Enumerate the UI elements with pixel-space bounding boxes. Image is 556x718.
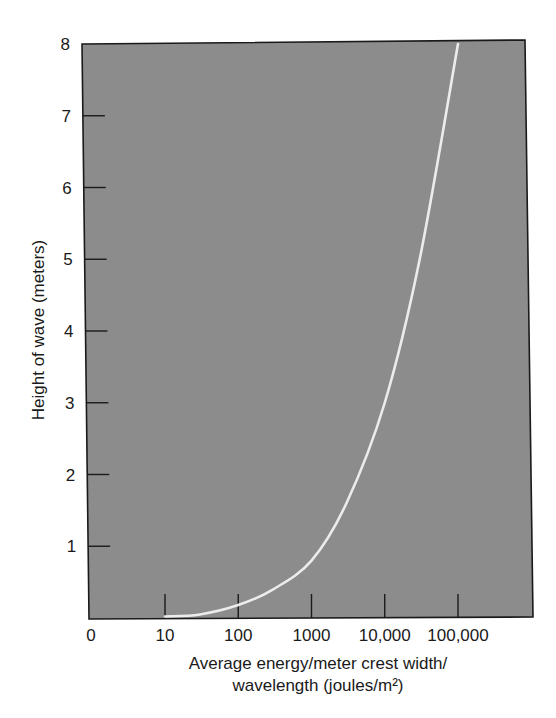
y-tick-label: 3 <box>65 394 74 413</box>
y-tick-label: 8 <box>61 35 70 54</box>
x-axis-tick-labels: 010100100010,000100,000 <box>86 626 488 645</box>
x-tick-label: 100 <box>224 626 252 645</box>
y-tick-label: 6 <box>62 179 71 198</box>
x-axis-title-line-2: wavelength (joules/m²) <box>231 676 403 695</box>
y-tick-label: 4 <box>64 322 73 341</box>
plot-area <box>82 40 533 619</box>
x-tick-label: 10 <box>156 626 175 645</box>
x-axis-title-line-1: Average energy/meter crest width/ <box>189 654 448 673</box>
y-axis-tick-labels: 12345678 <box>61 35 77 556</box>
y-tick-label: 7 <box>61 107 70 126</box>
x-tick-label: 10,000 <box>359 626 411 645</box>
y-tick-label: 2 <box>66 466 75 485</box>
wave-energy-chart: 12345678 010100100010,000100,000 Height … <box>0 0 556 718</box>
x-tick-label: 1000 <box>293 626 331 645</box>
y-tick-label: 1 <box>67 537 76 556</box>
y-tick-label: 5 <box>63 250 72 269</box>
x-tick-label: 100,000 <box>427 626 488 645</box>
plot-background <box>82 40 533 619</box>
x-tick-label: 0 <box>86 626 95 645</box>
y-axis-title: Height of wave (meters) <box>29 240 48 420</box>
